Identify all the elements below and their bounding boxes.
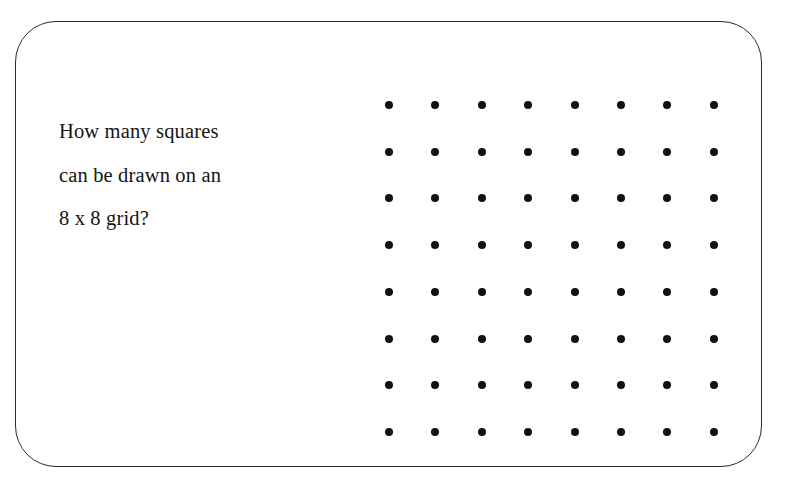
grid-dot (571, 101, 579, 109)
question-line-2: can be drawn on an (59, 154, 319, 198)
grid-dot (710, 381, 718, 389)
grid-dot (617, 241, 625, 249)
grid-dot (710, 101, 718, 109)
grid-dot (524, 335, 532, 343)
grid-dot (663, 101, 671, 109)
dot-grid-row (370, 335, 710, 343)
grid-dot (617, 148, 625, 156)
grid-dot (617, 335, 625, 343)
grid-dot (385, 288, 393, 296)
grid-dot (710, 335, 718, 343)
grid-dot (431, 428, 439, 436)
question-line-1: How many squares (59, 110, 319, 154)
dot-grid (370, 86, 710, 426)
grid-dot (710, 194, 718, 202)
grid-dot (431, 148, 439, 156)
grid-dot (478, 194, 486, 202)
grid-dot (571, 428, 579, 436)
grid-dot (617, 101, 625, 109)
grid-dot (617, 288, 625, 296)
grid-dot (478, 381, 486, 389)
grid-dot (431, 241, 439, 249)
grid-dot (385, 381, 393, 389)
grid-dot (524, 288, 532, 296)
grid-dot (617, 428, 625, 436)
grid-dot (663, 148, 671, 156)
grid-dot (663, 194, 671, 202)
grid-dot (385, 241, 393, 249)
grid-dot (431, 288, 439, 296)
grid-dot (571, 194, 579, 202)
grid-dot (478, 335, 486, 343)
grid-dot (431, 335, 439, 343)
grid-dot (663, 288, 671, 296)
grid-dot (571, 148, 579, 156)
grid-dot (710, 428, 718, 436)
dot-grid-row (370, 101, 710, 109)
question-line-3: 8 x 8 grid? (59, 197, 319, 241)
dot-grid-row (370, 194, 710, 202)
grid-dot (431, 194, 439, 202)
question-text-block: How many squares can be drawn on an 8 x … (59, 110, 319, 241)
grid-dot (524, 194, 532, 202)
grid-dot (617, 194, 625, 202)
grid-dot (431, 381, 439, 389)
grid-dot (478, 288, 486, 296)
grid-dot (571, 335, 579, 343)
grid-dot (524, 241, 532, 249)
grid-dot (385, 101, 393, 109)
grid-dot (478, 101, 486, 109)
grid-dot (478, 428, 486, 436)
grid-dot (663, 335, 671, 343)
dot-grid-row (370, 381, 710, 389)
dot-grid-row (370, 241, 710, 249)
grid-dot (478, 148, 486, 156)
grid-dot (478, 241, 486, 249)
grid-dot (524, 381, 532, 389)
grid-dot (663, 381, 671, 389)
grid-dot (524, 101, 532, 109)
grid-dot (385, 194, 393, 202)
grid-dot (431, 101, 439, 109)
dot-grid-row (370, 148, 710, 156)
dot-grid-row (370, 428, 710, 436)
grid-dot (385, 335, 393, 343)
grid-dot (571, 381, 579, 389)
grid-dot (710, 241, 718, 249)
grid-dot (617, 381, 625, 389)
grid-dot (524, 148, 532, 156)
grid-dot (663, 428, 671, 436)
grid-dot (524, 428, 532, 436)
grid-dot (385, 148, 393, 156)
grid-dot (710, 148, 718, 156)
dot-grid-row (370, 288, 710, 296)
grid-dot (663, 241, 671, 249)
puzzle-card: How many squares can be drawn on an 8 x … (15, 21, 762, 467)
grid-dot (571, 288, 579, 296)
grid-dot (571, 241, 579, 249)
grid-dot (710, 288, 718, 296)
grid-dot (385, 428, 393, 436)
